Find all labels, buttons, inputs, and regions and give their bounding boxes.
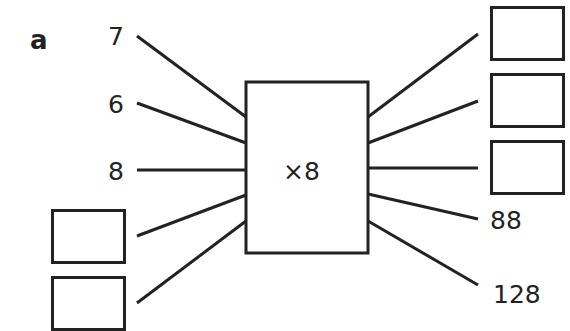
input-line-2 xyxy=(137,103,246,143)
input-line-5 xyxy=(137,221,246,303)
output-answer-box-2[interactable] xyxy=(490,73,565,128)
machine-operation: ×8 xyxy=(283,157,320,186)
input-value-3: 8 xyxy=(108,159,124,184)
output-value-4: 88 xyxy=(490,208,522,233)
output-line-1 xyxy=(368,34,478,117)
input-answer-box-4[interactable] xyxy=(51,209,126,264)
output-line-2 xyxy=(368,101,478,143)
input-line-1 xyxy=(137,36,246,117)
output-answer-box-3[interactable] xyxy=(490,140,565,195)
input-value-1: 7 xyxy=(108,24,124,49)
output-line-4 xyxy=(368,194,478,219)
input-answer-box-5[interactable] xyxy=(51,276,126,331)
output-answer-box-1[interactable] xyxy=(490,6,565,61)
output-value-5: 128 xyxy=(493,282,541,307)
output-line-5 xyxy=(368,221,478,285)
part-label: a xyxy=(30,25,48,55)
input-line-4 xyxy=(137,195,246,236)
input-value-2: 6 xyxy=(108,92,124,117)
